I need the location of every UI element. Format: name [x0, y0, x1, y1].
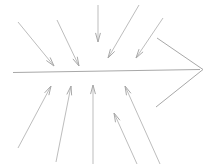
upper-bone-1-shaft: [18, 22, 54, 66]
upper-bones-group: [18, 5, 163, 66]
upper-bone-4-shaft: [108, 5, 139, 58]
fishbone-diagram: [0, 0, 212, 164]
lower-bone-2-shaft: [56, 86, 71, 162]
upper-bone-2-arrowhead: [73, 57, 79, 66]
lower-bone-4-arrowhead: [114, 113, 120, 122]
lower-bones-group: [18, 85, 160, 164]
effect-head-arrow: [156, 38, 203, 107]
upper-bone-2-shaft: [57, 20, 79, 66]
effect-head-group: [156, 38, 203, 107]
spine-line: [13, 70, 200, 73]
lower-bone-5-arrowhead: [125, 86, 131, 95]
diagram-canvas: [0, 0, 212, 164]
lower-bone-4-shaft: [114, 113, 137, 164]
lower-bone-1-arrowhead: [45, 86, 51, 95]
lower-bone-5-shaft: [125, 86, 160, 164]
upper-bone-5-shaft: [136, 18, 163, 58]
upper-bone-4-arrowhead: [108, 49, 114, 58]
spine-group: [13, 70, 200, 73]
lower-bone-1-shaft: [18, 86, 51, 148]
